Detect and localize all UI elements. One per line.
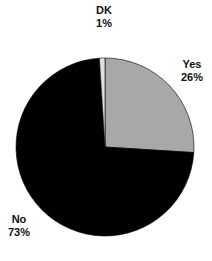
label-yes-name: Yes [172,58,212,71]
label-dk-name: DK [84,4,124,17]
label-no-name: No [2,213,36,226]
label-dk: DK 1% [84,4,124,30]
label-dk-pct: 1% [84,17,124,30]
label-no-pct: 73% [2,226,36,239]
label-yes: Yes 26% [172,58,212,84]
label-no: No 73% [2,213,36,239]
label-yes-pct: 26% [172,71,212,84]
